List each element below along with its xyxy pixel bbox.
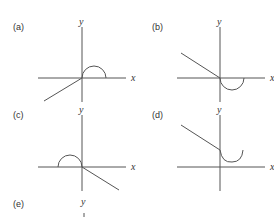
panel-d-label: (d) [152, 110, 163, 120]
panel-c-label: (c) [13, 110, 24, 120]
panel-c-x-label: x [131, 161, 135, 172]
panel-d-x-label: x [270, 161, 274, 172]
panel-c-graph [38, 115, 126, 191]
curve-line [181, 53, 220, 78]
panel-a-label: (a) [13, 22, 24, 32]
curve-line [82, 167, 119, 190]
panel-b-label: (b) [152, 22, 163, 32]
curve-arc [220, 150, 243, 162]
panel-d-graph [177, 115, 265, 191]
panel-a-graph [38, 27, 126, 102]
curve-line [44, 78, 82, 101]
curve-arc [58, 155, 82, 167]
curve-arc [82, 66, 106, 78]
panel-b-graph [177, 27, 265, 102]
panel-b-x-label: x [270, 72, 274, 83]
curve-arc [220, 78, 244, 90]
panel-e-label: (e) [13, 199, 24, 209]
graphs-canvas [0, 0, 274, 217]
panel-b-y-label: y [217, 16, 221, 27]
panel-c-y-label: y [79, 104, 83, 115]
curve-line [181, 125, 220, 150]
panel-e-y-label: y [81, 196, 85, 207]
panel-a-y-label: y [79, 16, 83, 27]
panel-d-y-label: y [217, 104, 221, 115]
panel-a-x-label: x [131, 72, 135, 83]
